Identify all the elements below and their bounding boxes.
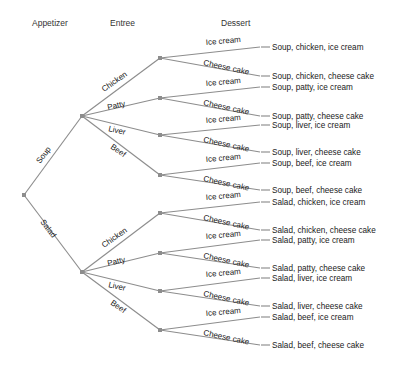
outcome-label-1: Soup, chicken, cheese cake [272,72,374,81]
tree-node-appetizer-soup [80,114,84,118]
outcome-label-2: Soup, patty, ice cream [272,83,353,92]
outcome-label-8: Salad, chicken, ice cream [272,198,365,207]
branch-label-dessert-15: Cheese cake [203,328,251,347]
tree-node-entree-5 [158,251,162,255]
branch-label-dessert-13: Cheese cake [203,289,251,308]
outcome-label-9: Salad, chicken, cheese cake [272,226,376,235]
outcome-labels: Soup, chicken, ice creamSoup, chicken, c… [272,43,376,350]
outcome-label-11: Salad, patty, cheese cake [272,264,366,273]
branch-label-appetizer-soup: Soup [34,144,53,165]
branch-label-dessert-8: Ice cream [205,190,241,202]
tree-node-entree-4 [158,211,162,215]
outcome-label-15: Salad, beef, cheese cake [272,341,364,350]
tree-nodes [22,56,162,332]
column-header-appetizer: Appetizer [32,18,68,28]
outcome-label-3: Soup, patty, cheese cake [272,112,364,121]
branch-dessert-8 [160,202,260,213]
branch-label-dessert-6: Ice cream [205,152,241,164]
column-headers: AppetizerEntreeDessert [32,18,251,28]
tree-node-entree-7 [158,328,162,332]
branch-dessert-0 [160,47,260,58]
branch-dessert-6 [160,163,260,175]
branch-labels: SoupSaladChickenPattyLiverBeefChickenPat… [34,35,250,347]
outcome-label-5: Soup, liver, cheese cake [272,148,361,157]
branch-label-entree-5: Patty [106,255,126,268]
tree-node-entree-3 [158,173,162,177]
outcome-label-0: Soup, chicken, ice cream [272,43,364,52]
branch-label-dessert-4: Ice cream [205,113,241,125]
branch-dessert-12 [160,278,260,291]
column-header-dessert: Dessert [221,18,251,28]
probability-tree-diagram: AppetizerEntreeDessert SoupSaladChickenP… [0,0,406,366]
outcome-label-7: Soup, beef, cheese cake [272,186,363,195]
branch-label-entree-0: Chicken [100,70,129,94]
outcome-label-10: Salad, patty, ice cream [272,236,355,245]
branch-label-dessert-1: Cheese cake [203,58,251,77]
branch-label-dessert-11: Cheese cake [203,251,251,270]
branch-label-entree-7: Beef [109,298,128,315]
tree-node-entree-6 [158,289,162,293]
branch-label-dessert-5: Cheese cake [203,135,251,154]
branch-entree-7 [82,272,160,330]
branch-label-entree-1: Patty [106,99,126,112]
outcome-label-13: Salad, liver, cheese cake [272,302,363,311]
branch-label-dessert-12: Ice cream [205,267,241,279]
branch-label-dessert-7: Cheese cake [203,174,251,193]
tree-node-appetizer-salad [80,270,84,274]
branch-label-entree-3: Beef [109,142,128,159]
branch-dessert-14 [160,317,260,330]
outcome-label-14: Salad, beef, ice cream [272,313,354,322]
outcome-label-6: Soup, beef, ice cream [272,159,352,168]
tree-node-entree-2 [158,133,162,137]
branch-appetizer-soup [24,116,82,195]
tree-node-entree-1 [158,96,162,100]
branch-label-dessert-2: Ice cream [205,76,241,88]
tree-node-entree-0 [158,56,162,60]
branch-label-dessert-9: Cheese cake [203,213,251,232]
branch-entree-3 [82,116,160,175]
branch-label-appetizer-salad: Salad [38,218,58,240]
branch-label-dessert-10: Ice cream [205,229,241,241]
branch-dessert-2 [160,87,260,98]
column-header-entree: Entree [110,18,135,28]
branch-label-dessert-0: Ice cream [205,35,241,47]
branch-label-dessert-14: Ice cream [205,306,241,318]
tree-node-root [22,193,26,197]
branch-label-entree-4: Chicken [100,226,129,250]
branch-dessert-4 [160,125,260,135]
outcome-stub-lines [261,47,270,345]
branch-dessert-10 [160,240,260,253]
outcome-label-4: Soup, liver, ice cream [272,121,350,130]
outcome-label-12: Salad, liver, ice cream [272,274,352,283]
